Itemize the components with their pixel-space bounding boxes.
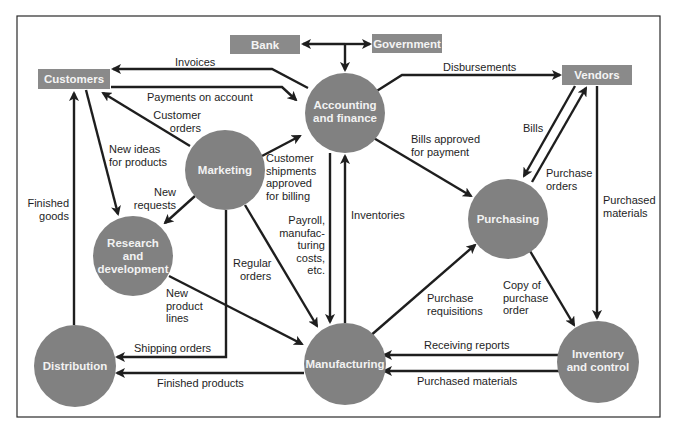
svg-text:Inventoryand control: Inventoryand control xyxy=(567,348,630,373)
label-customer-shipments: Customershipmentsapprovedfor billing xyxy=(266,152,317,202)
inventory-label-1: Inventory xyxy=(572,348,624,360)
label-receiving-reports: Receiving reports xyxy=(424,339,510,351)
marketing-label: Marketing xyxy=(198,164,252,176)
label-inventories: Inventories xyxy=(351,209,405,221)
label-bills: Bills xyxy=(523,122,544,134)
label-shipping-orders: Shipping orders xyxy=(134,342,212,354)
entity-customers-label: Customers xyxy=(44,73,104,85)
label-disbursements: Disbursements xyxy=(443,61,517,73)
research-label-3: development xyxy=(98,263,169,275)
function-purchasing: Purchasing xyxy=(468,179,548,259)
entity-vendors-label: Vendors xyxy=(574,69,619,81)
function-marketing: Marketing xyxy=(185,130,265,210)
label-finished-products: Finished products xyxy=(157,377,244,389)
distribution-label: Distribution xyxy=(43,360,108,372)
entity-vendors: Vendors xyxy=(562,65,632,85)
entity-bank: Bank xyxy=(230,35,300,54)
function-distribution: Distribution xyxy=(34,325,116,407)
inventory-label-2: and control xyxy=(567,361,630,373)
entity-customers: Customers xyxy=(38,69,110,89)
function-manufacturing: Manufacturing xyxy=(304,323,386,405)
svg-text:Accountingand finance: Accountingand finance xyxy=(313,99,377,124)
entity-government: Government xyxy=(372,34,442,53)
label-invoices: Invoices xyxy=(175,56,216,68)
research-label-2: and xyxy=(123,250,143,262)
function-accounting: Accountingand finance xyxy=(305,73,385,153)
purchasing-label: Purchasing xyxy=(477,213,540,225)
function-research-development: Researchanddevelopment xyxy=(93,216,173,296)
accounting-label-1: Accounting xyxy=(313,99,376,111)
accounting-label-2: and finance xyxy=(313,112,377,124)
label-payments-on-account: Payments on account xyxy=(147,91,253,103)
entity-bank-label: Bank xyxy=(251,39,280,51)
business-flow-diagram: Bank Government Customers Vendors Accoun… xyxy=(0,0,679,434)
entity-government-label: Government xyxy=(373,38,441,50)
label-purchased-materials-inventory: Purchased materials xyxy=(417,375,518,387)
function-inventory-control: Inventoryand control xyxy=(557,321,639,403)
label-new-ideas: New ideasfor products xyxy=(109,143,168,168)
research-label-1: Research xyxy=(107,237,159,249)
manufacturing-label: Manufacturing xyxy=(305,358,384,370)
